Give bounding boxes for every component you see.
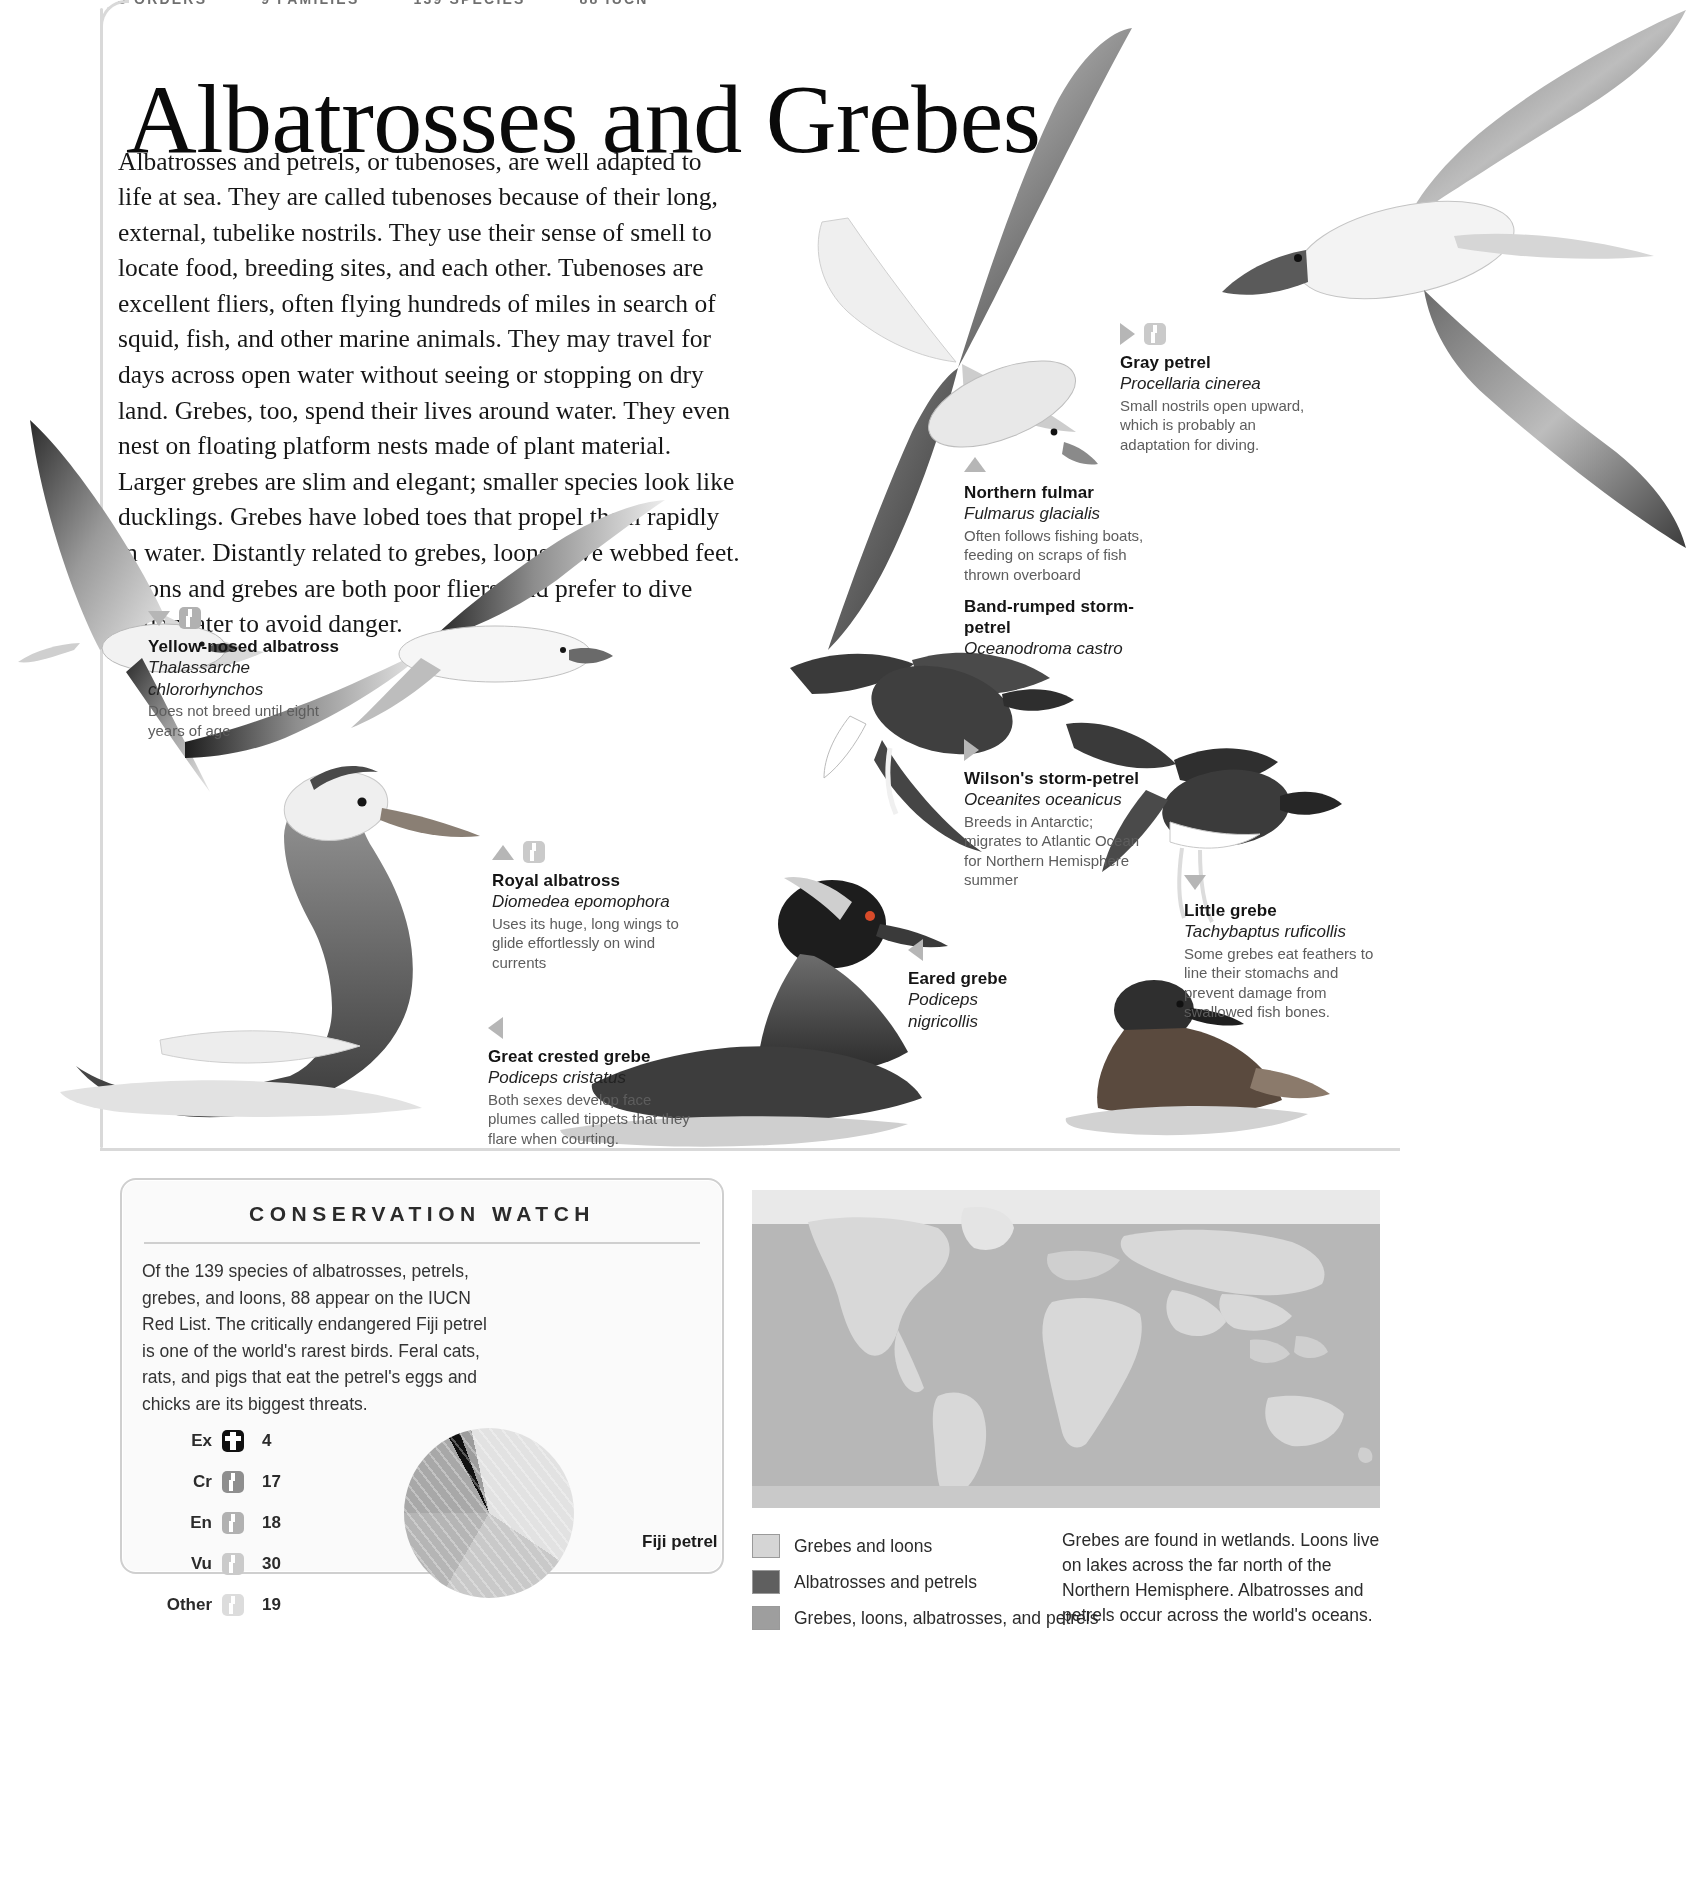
fiji-petrel-caption: Fiji petrel (642, 1532, 718, 1552)
legend-value: 17 (262, 1472, 281, 1492)
species-scientific-name: Fulmarus glacialis (964, 503, 1164, 525)
species-name: Yellow-nosed albatross (148, 636, 348, 657)
species-scientific-name: Oceanites oceanicus (964, 789, 1149, 811)
caption-markers (1120, 322, 1320, 346)
triangle-down-icon (148, 611, 170, 626)
legend-label: Ex (150, 1431, 212, 1451)
legend-label: Vu (150, 1554, 212, 1574)
page-rule-vertical (100, 8, 103, 1148)
legend-row-ex: Ex 4 (150, 1420, 380, 1461)
caption-markers (908, 938, 1048, 962)
legend-value: 30 (262, 1554, 281, 1574)
caption-wilsons-storm-petrel: Wilson's storm-petrel Oceanites oceanicu… (964, 738, 1149, 890)
species-note: Both sexes develop face plumes called ti… (488, 1090, 703, 1149)
species-name: Gray petrel (1120, 352, 1320, 373)
triangle-up-icon (964, 457, 986, 472)
species-name: Band-rumped storm-petrel (964, 596, 1139, 638)
intro-paragraph: Albatrosses and petrels, or tubenoses, a… (118, 144, 740, 642)
legend-value: 19 (262, 1595, 281, 1615)
caption-great-crested-grebe-main: Great crested grebe Podiceps cristatus B… (488, 1016, 703, 1148)
legend-text: Albatrosses and petrels (794, 1572, 977, 1593)
species-scientific-name: Diomedea epomophora (492, 891, 707, 913)
caption-markers (964, 452, 1164, 476)
runhead-item-0: 3 ORDERS (118, 0, 207, 7)
species-name: Northern fulmar (964, 482, 1164, 503)
legend-row-en: En 18 (150, 1502, 380, 1543)
species-name: Little grebe (1184, 900, 1374, 921)
legend-swatch-albatrosses-petrels (752, 1570, 780, 1594)
distribution-map (752, 1190, 1380, 1508)
conservation-watch-title: CONSERVATION WATCH (122, 1202, 722, 1226)
species-scientific-name: Thalassarche chlororhynchos (148, 657, 348, 700)
iucn-endangered-icon (222, 1512, 244, 1534)
triangle-left-icon (488, 1017, 503, 1039)
species-scientific-name: Podiceps cristatus (488, 1067, 703, 1089)
species-note: Small nostrils open upward, which is pro… (1120, 396, 1320, 455)
legend-swatch-grebes-loons (752, 1534, 780, 1558)
caption-eared-grebe: Eared grebe Podiceps nigricollis (908, 938, 1048, 1032)
conservation-watch-panel: CONSERVATION WATCH Of the 139 species of… (120, 1178, 724, 1574)
species-scientific-name: Oceanodroma castro (964, 638, 1139, 660)
species-scientific-name: Podiceps nigricollis (908, 989, 1048, 1032)
iucn-status-icon (179, 607, 201, 629)
species-name: Wilson's storm-petrel (964, 768, 1149, 789)
species-note: Often follows fishing boats, feeding on … (964, 526, 1164, 585)
caption-markers (148, 606, 348, 630)
legend-value: 4 (262, 1431, 271, 1451)
species-scientific-name: Tachybaptus ruficollis (1184, 921, 1374, 943)
triangle-right-icon (1120, 323, 1135, 345)
legend-row-cr: Cr 17 (150, 1461, 380, 1502)
iucn-legend: Ex 4 Cr 17 En 18 Vu 30 Other (150, 1420, 380, 1625)
runhead-item-2: 139 SPECIES (413, 0, 525, 7)
legend-text: Grebes and loons (794, 1536, 932, 1557)
caption-band-rumped-storm-petrel: Band-rumped storm-petrel Oceanodroma cas… (964, 596, 1139, 660)
legend-value: 18 (262, 1513, 281, 1533)
species-name: Royal albatross (492, 870, 707, 891)
runhead-item-1: 9 FAMILIES (261, 0, 359, 7)
iucn-critical-icon (222, 1471, 244, 1493)
legend-text: Grebes, loons, albatrosses, and petrels (794, 1608, 1098, 1629)
legend-label: Other (150, 1595, 212, 1615)
legend-swatch-all (752, 1606, 780, 1630)
runhead-item-3: 88 IUCN (580, 0, 649, 7)
triangle-left-icon (908, 939, 923, 961)
species-scientific-name: Procellaria cinerea (1120, 373, 1320, 395)
iucn-status-icon (1144, 323, 1166, 345)
species-note: Does not breed until eight years of age (148, 701, 348, 740)
caption-gray-petrel: Gray petrel Procellaria cinerea Small no… (1120, 322, 1320, 454)
iucn-status-icon (523, 841, 545, 863)
legend-row-vu: Vu 30 (150, 1543, 380, 1584)
caption-northern-fulmar: Northern fulmar Fulmarus glacialis Often… (964, 452, 1164, 584)
iucn-vulnerable-icon (222, 1553, 244, 1575)
page-rule-horizontal (100, 1148, 1400, 1151)
map-note: Grebes are found in wetlands. Loons live… (1062, 1528, 1392, 1628)
divider (144, 1242, 700, 1244)
legend-label: Cr (150, 1472, 212, 1492)
caption-markers (964, 738, 1149, 762)
conservation-watch-body: Of the 139 species of albatrosses, petre… (142, 1258, 502, 1417)
caption-markers (1184, 870, 1374, 894)
legend-label: En (150, 1513, 212, 1533)
species-note: Breeds in Antarctic; migrates to Atlanti… (964, 812, 1149, 890)
caption-yellow-nosed-albatross: Yellow-nosed albatross Thalassarche chlo… (148, 606, 348, 740)
caption-little-grebe: Little grebe Tachybaptus ruficollis Some… (1184, 870, 1374, 1022)
triangle-right-icon (964, 739, 979, 761)
triangle-up-icon (492, 845, 514, 860)
species-name: Great crested grebe (488, 1046, 703, 1067)
caption-markers (488, 1016, 703, 1040)
legend-row-other: Other 19 (150, 1584, 380, 1625)
iucn-extinct-icon (222, 1430, 244, 1452)
illustration-gray-petrel (1186, 0, 1686, 620)
species-note: Uses its huge, long wings to glide effor… (492, 914, 707, 973)
triangle-down-icon (1184, 875, 1206, 890)
caption-royal-albatross: Royal albatross Diomedea epomophora Uses… (492, 840, 707, 972)
species-note: Some grebes eat feathers to line their s… (1184, 944, 1374, 1022)
species-name: Eared grebe (908, 968, 1048, 989)
caption-markers (492, 840, 707, 864)
running-head: 3 ORDERS 9 FAMILIES 139 SPECIES 88 IUCN (118, 0, 1218, 7)
iucn-other-icon (222, 1594, 244, 1616)
iucn-pie-chart (404, 1428, 574, 1598)
illustration-great-crested-grebe (40, 740, 560, 1140)
